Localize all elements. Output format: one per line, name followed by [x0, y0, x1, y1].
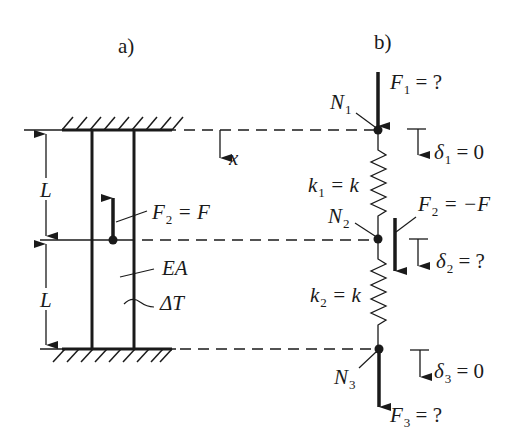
- node-3-leader: [359, 352, 376, 368]
- force-2-leader: [396, 217, 416, 232]
- force-1-label: F1 = ?: [390, 72, 442, 93]
- node-2-leader: [355, 223, 375, 236]
- force-2-label: F2 = −F: [418, 194, 490, 215]
- dashed-guides: [142, 130, 374, 349]
- load-arrow-up: [109, 198, 148, 245]
- stiffness-label: EA: [162, 258, 188, 279]
- dt-leader: [124, 299, 154, 307]
- node-3-label: N3: [334, 367, 356, 388]
- length-top-label: L: [40, 180, 52, 201]
- delta-markers: [407, 129, 429, 377]
- top-hatch: [62, 117, 183, 130]
- spring-1-label: k1 = k: [308, 175, 359, 196]
- ea-leader: [120, 269, 154, 277]
- spring-2-label: k2 = k: [310, 285, 361, 306]
- temperature-label: ΔT: [160, 293, 184, 314]
- panel-a-label: a): [118, 36, 134, 57]
- bar: [40, 130, 134, 349]
- spring-1: [371, 130, 386, 240]
- delta-2-label: δ2 = ?: [436, 251, 485, 272]
- bottom-hatch: [53, 349, 172, 362]
- spring-2: [371, 240, 386, 349]
- force-3-label: F3 = ?: [390, 405, 442, 426]
- diagram-canvas: a) b) L L x F2 = F EA ΔT F1 = ? N1 δ1 = …: [0, 0, 521, 443]
- x-axis-label: x: [229, 148, 238, 169]
- load-f2-label: F2 = F: [152, 202, 210, 223]
- top-support: [24, 117, 183, 130]
- panel-b-label: b): [374, 32, 392, 53]
- node-1-leader: [356, 113, 375, 127]
- delta-3-label: δ3 = 0: [434, 361, 484, 382]
- bottom-support: [40, 349, 176, 362]
- node-1-label: N1: [330, 92, 352, 113]
- node-2-label: N2: [328, 206, 350, 227]
- delta-1-label: δ1 = 0: [434, 142, 484, 163]
- length-bottom-label: L: [40, 290, 52, 311]
